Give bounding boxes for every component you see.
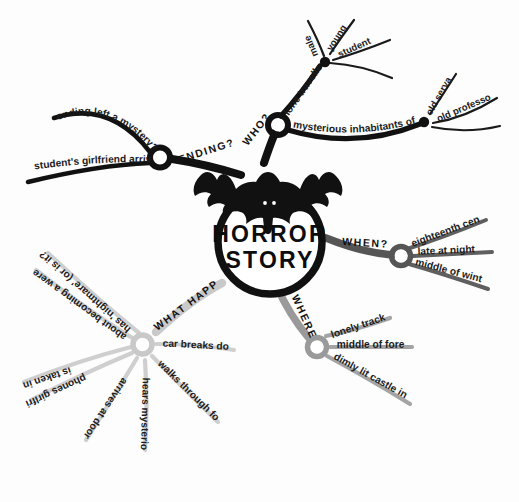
node-who-core [272,119,285,132]
mindmap-graphic: HORROR STORY ENDING? ending left a myste… [0,0,519,502]
node-where-core [311,341,324,354]
label-about-becoming-a-werewolf[interactable]: about becoming a werewolf [0,0,128,343]
label-old-servant[interactable]: old servant [0,0,454,117]
label-old-professor[interactable]: old professor [0,0,492,124]
label-walks-through-forest[interactable]: walks through forest [0,0,222,423]
label-students-girlfriend-arrives[interactable]: student's girlfriend arrives [0,0,152,172]
label-ending-text: ENDING? [177,136,236,165]
node-lone-traveller[interactable] [320,57,330,67]
leaf-stem-old-professor-under [432,126,500,130]
mindmap-canvas: HORROR STORY ENDING? ending left a myste… [0,0,519,502]
label-ending[interactable]: ENDING? [177,136,236,165]
leaf-stem-student-under [330,63,392,78]
node-ending-core [154,151,167,164]
label-lonely-track[interactable]: lonely track [329,311,387,340]
node-when-core [395,250,408,263]
branch-stem-who [264,133,275,163]
center-title-line2: STORY [226,247,315,273]
node-mysterious-inhabitants[interactable] [419,117,429,127]
center-node[interactable]: HORROR STORY [194,172,343,294]
label-lone-traveller[interactable]: lone traveller [0,0,324,117]
label-phones-girlfriend[interactable]: phones girlfriend [0,0,88,410]
node-what-happens-core [136,338,149,351]
center-title-line1: HORROR [212,221,327,247]
